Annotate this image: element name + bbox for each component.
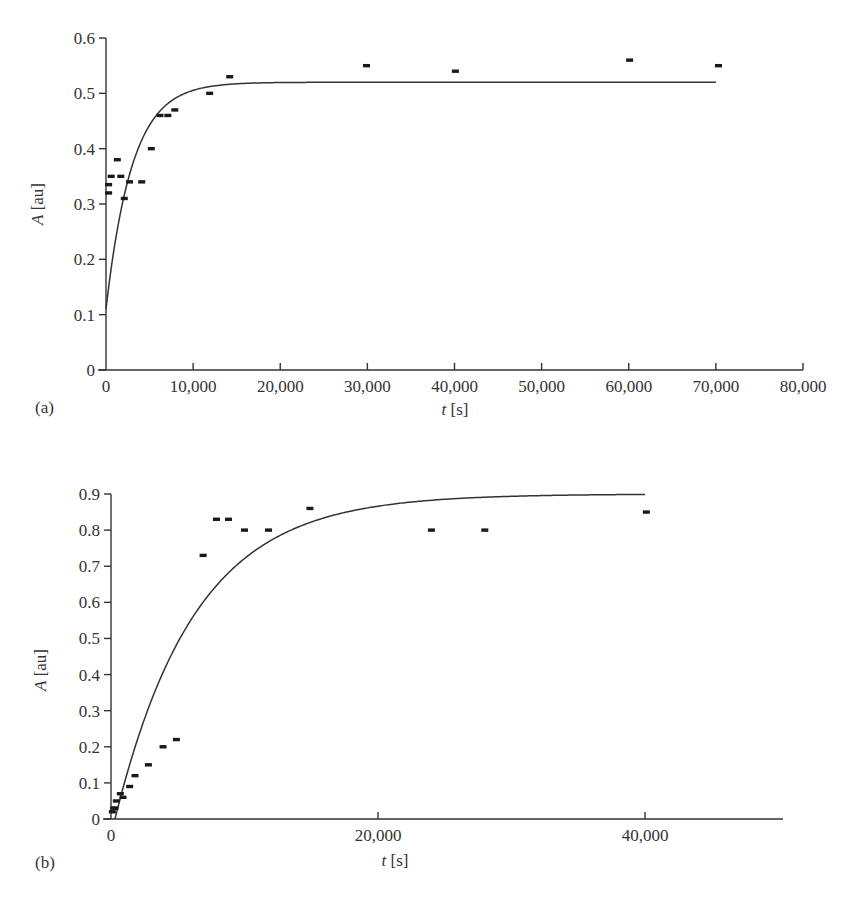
x-tick-label: 0 xyxy=(107,826,116,845)
y-tick-label: 0.2 xyxy=(74,250,95,269)
x-tick-label: 20,000 xyxy=(355,826,402,845)
axes-b: 00.10.20.30.40.50.60.70.80.9020,00040,00… xyxy=(79,485,783,845)
data-point-marker xyxy=(363,64,370,67)
data-point-marker xyxy=(428,528,435,531)
y-tick-label: 0.1 xyxy=(79,774,100,793)
data-point-marker xyxy=(145,763,152,766)
figure: 00.10.20.30.40.50.6010,00020,00030,00040… xyxy=(0,0,860,903)
x-tick-label: 40,000 xyxy=(431,377,478,396)
data-point-marker xyxy=(120,796,127,799)
data-point-marker xyxy=(306,507,313,510)
data-point-marker xyxy=(126,180,133,183)
data-point-marker xyxy=(105,191,112,194)
y-tick-label: 0.8 xyxy=(79,521,100,540)
data-point-marker xyxy=(481,528,488,531)
data-point-marker xyxy=(452,70,459,73)
data-point-marker xyxy=(138,180,145,183)
data-point-marker xyxy=(643,510,650,513)
data-point-marker xyxy=(114,158,121,161)
x-tick-label: 0 xyxy=(102,377,111,396)
data-point-marker xyxy=(132,774,139,777)
y-tick-label: 0.7 xyxy=(79,557,101,576)
data-point-marker xyxy=(171,108,178,111)
data-point-marker xyxy=(117,175,124,178)
x-tick-label: 50,000 xyxy=(518,377,565,396)
x-axis-label-a: t [s] xyxy=(442,400,469,419)
x-tick-label: 60,000 xyxy=(605,377,652,396)
y-tick-label: 0.4 xyxy=(74,140,96,159)
data-point-marker xyxy=(113,799,120,802)
fit-curve-a xyxy=(106,82,716,309)
y-tick-label: 0.4 xyxy=(79,666,101,685)
y-axis-label-a: A [au] xyxy=(28,183,47,226)
data-point-marker xyxy=(173,738,180,741)
data-point-marker xyxy=(715,64,722,67)
y-tick-label: 0 xyxy=(92,810,101,829)
y-tick-label: 0.6 xyxy=(79,593,100,612)
data-point-marker xyxy=(112,806,119,809)
x-tick-label: 30,000 xyxy=(344,377,391,396)
data-point-marker xyxy=(160,745,167,748)
y-tick-label: 0.5 xyxy=(74,84,95,103)
data-point-marker xyxy=(117,792,124,795)
axes-a: 00.10.20.30.40.50.6010,00020,00030,00040… xyxy=(74,29,827,396)
x-tick-label: 20,000 xyxy=(257,377,304,396)
data-point-marker xyxy=(226,75,233,78)
data-point-marker xyxy=(108,175,115,178)
data-point-marker xyxy=(105,183,112,186)
x-tick-label: 70,000 xyxy=(693,377,740,396)
x-tick-label: 40,000 xyxy=(622,826,669,845)
data-point-marker xyxy=(121,197,128,200)
chart-panel-b: 00.10.20.30.40.50.60.70.80.9020,00040,00… xyxy=(31,485,783,872)
fit-line xyxy=(115,494,645,819)
data-point-marker xyxy=(206,92,213,95)
y-tick-label: 0.9 xyxy=(79,485,100,504)
data-points-b xyxy=(109,507,650,814)
panel-label-b: (b) xyxy=(35,853,55,872)
chart-panel-a: 00.10.20.30.40.50.6010,00020,00030,00040… xyxy=(28,29,826,419)
y-tick-label: 0.1 xyxy=(74,306,95,325)
data-point-marker xyxy=(164,114,171,117)
y-tick-label: 0.5 xyxy=(79,629,100,648)
data-point-marker xyxy=(148,147,155,150)
y-tick-label: 0.2 xyxy=(79,738,100,757)
y-tick-label: 0 xyxy=(87,361,96,380)
fit-curve-b xyxy=(115,494,645,819)
data-point-marker xyxy=(241,528,248,531)
data-point-marker xyxy=(157,114,164,117)
x-tick-label: 10,000 xyxy=(170,377,217,396)
y-axis-label-b: A [au] xyxy=(31,649,50,692)
x-tick-label: 80,000 xyxy=(780,377,827,396)
data-point-marker xyxy=(225,518,232,521)
y-tick-label: 0.3 xyxy=(79,702,100,721)
x-axis-label-b: t [s] xyxy=(382,851,409,870)
data-point-marker xyxy=(265,528,272,531)
fit-line xyxy=(106,82,716,309)
data-point-marker xyxy=(126,785,133,788)
data-point-marker xyxy=(213,518,220,521)
data-points-a xyxy=(105,58,722,200)
panel-label-a: (a) xyxy=(35,398,54,417)
y-tick-label: 0.3 xyxy=(74,195,95,214)
data-point-marker xyxy=(626,58,633,61)
data-point-marker xyxy=(200,554,207,557)
y-tick-label: 0.6 xyxy=(74,29,95,48)
data-point-marker xyxy=(109,810,116,813)
